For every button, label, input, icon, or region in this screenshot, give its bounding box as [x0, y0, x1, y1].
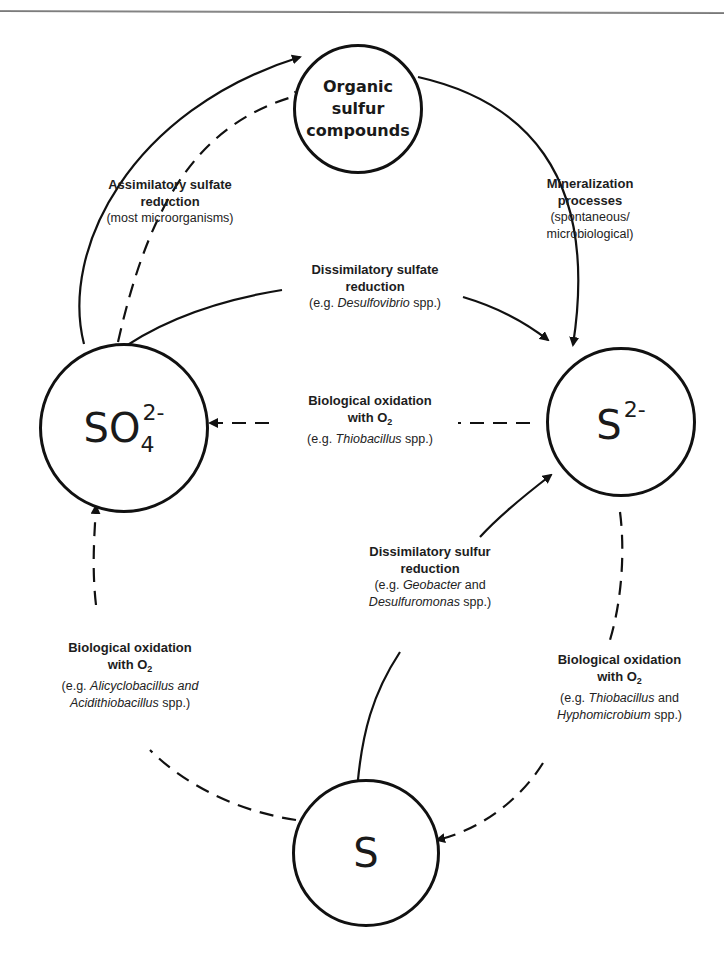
- oxidation-left-title1: Biological oxidation: [25, 639, 235, 656]
- label-dissimilatory-sulfate: Dissimilatory sulfate reduction (e.g. De…: [270, 261, 480, 312]
- mineralization-example1: (spontaneous/: [515, 209, 665, 226]
- node-sulfur: S: [292, 779, 440, 927]
- arrow-oxidation-right-bottom: [437, 763, 543, 840]
- organic-line1: Organic sulfur: [323, 77, 393, 118]
- node-sulfate: SO42-: [39, 343, 209, 513]
- label-oxidation-sulfide: Biological oxidation with O2 (e.g. Thiob…: [270, 392, 470, 448]
- assimilatory-example: (most microorganisms): [70, 210, 270, 227]
- node-organic-sulfur: Organic sulfur compounds: [293, 44, 423, 174]
- dissimilatory-sulfur-example2: Desulfuromonas spp.): [335, 594, 525, 611]
- arrow-oxidation-right-top: [610, 512, 622, 640]
- oxidation-right-example1: (e.g. Thiobacillus and: [527, 690, 712, 707]
- sulfide-base: S: [596, 402, 621, 448]
- dissimilatory-sulfate-title2: reduction: [270, 278, 480, 295]
- sulfide-charge: 2-: [624, 397, 646, 422]
- assimilatory-title2: reduction: [70, 193, 270, 210]
- assimilatory-title1: Assimilatory sulfate: [70, 176, 270, 193]
- oxidation-sulfide-title2: with O2: [270, 409, 470, 431]
- oxidation-left-example2: Acidithiobacillus spp.): [25, 695, 235, 712]
- label-oxidation-sulfur-left: Biological oxidation with O2 (e.g. Alicy…: [25, 639, 235, 712]
- oxidation-left-example1: (e.g. Alicyclobacillus and: [25, 678, 235, 695]
- sulfate-sub: 4: [140, 432, 154, 457]
- arrow-dissimilatory-sulfur-top: [480, 475, 551, 537]
- oxidation-right-title1: Biological oxidation: [527, 651, 712, 668]
- arrow-oxidation-left-top: [94, 506, 96, 605]
- label-dissimilatory-sulfur: Dissimilatory sulfur reduction (e.g. Geo…: [335, 543, 525, 611]
- oxidation-sulfide-example: (e.g. Thiobacillus spp.): [270, 431, 470, 448]
- mineralization-title2: processes: [515, 192, 665, 209]
- sulfate-base: SO: [84, 405, 141, 451]
- sulfate-charge: 2-: [142, 400, 164, 425]
- mineralization-title1: Mineralization: [515, 175, 665, 192]
- node-sulfide: S2-: [546, 347, 696, 497]
- label-mineralization: Mineralization processes (spontaneous/ m…: [515, 175, 665, 243]
- oxidation-sulfide-title1: Biological oxidation: [270, 392, 470, 409]
- dissimilatory-sulfur-title1: Dissimilatory sulfur: [335, 543, 525, 560]
- dissimilatory-sulfate-title1: Dissimilatory sulfate: [270, 261, 480, 278]
- dissimilatory-sulfate-example: (e.g. Desulfovibrio spp.): [270, 295, 480, 312]
- organic-line2: compounds: [306, 121, 409, 140]
- oxidation-right-title2: with O2: [527, 668, 712, 690]
- label-assimilatory: Assimilatory sulfate reduction (most mic…: [70, 176, 270, 227]
- dissimilatory-sulfur-example1: (e.g. Geobacter and: [335, 577, 525, 594]
- label-oxidation-sulfide-right: Biological oxidation with O2 (e.g. Thiob…: [527, 651, 712, 724]
- mineralization-example2: microbiological): [515, 226, 665, 243]
- arrow-oxidation-left-bottom: [150, 750, 296, 820]
- oxidation-right-example2: Hyphomicrobium spp.): [527, 707, 712, 724]
- oxidation-left-title2: with O2: [25, 656, 235, 678]
- sulfur-base: S: [353, 830, 378, 876]
- dissimilatory-sulfur-title2: reduction: [335, 560, 525, 577]
